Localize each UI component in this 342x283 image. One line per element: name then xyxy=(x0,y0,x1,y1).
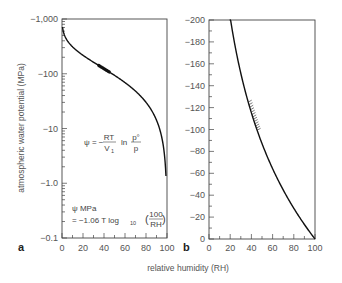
svg-text:ψ = −: ψ = − xyxy=(84,138,104,147)
panel-a-x-ticks xyxy=(62,233,167,238)
svg-text:−80: −80 xyxy=(190,146,205,156)
svg-text:−100: −100 xyxy=(185,125,205,135)
svg-text:p°: p° xyxy=(132,133,140,142)
svg-text:RH: RH xyxy=(150,220,162,229)
svg-text:−120: −120 xyxy=(185,103,205,113)
panel-a-y-ticks xyxy=(62,19,67,238)
a-ytick-1000: −1,000 xyxy=(30,14,58,24)
svg-text:RT: RT xyxy=(104,133,115,142)
a-ytick-0.1: −0.1 xyxy=(40,233,58,243)
svg-text:0: 0 xyxy=(206,243,211,253)
panel-a-highlight-segment xyxy=(99,65,110,72)
a-xtick-80: 80 xyxy=(141,243,151,253)
panel-a-label: a xyxy=(18,241,25,253)
panel-b-y-tick-labels: −200−180−160−140−120−100−80−60−40−200 xyxy=(185,15,205,244)
equation-2: ψ MPa = −1.06 T log 10 ( 100 RH ) xyxy=(72,204,166,229)
a-xtick-60: 60 xyxy=(120,243,130,253)
panel-a-curve xyxy=(63,27,166,176)
panel-b-y-ticks xyxy=(209,20,214,239)
svg-text:): ) xyxy=(162,213,166,225)
svg-text:= −1.06 T log: = −1.06 T log xyxy=(72,216,119,225)
svg-text:−60: −60 xyxy=(190,168,205,178)
svg-text:40: 40 xyxy=(246,243,256,253)
y-axis-title: atmospheric water potential (MPa) xyxy=(16,63,26,193)
svg-text:1: 1 xyxy=(111,148,114,154)
svg-text:100: 100 xyxy=(307,243,322,253)
a-ytick-1: −1.0 xyxy=(40,178,58,188)
svg-text:−160: −160 xyxy=(185,59,205,69)
panel-b-frame xyxy=(209,20,315,239)
svg-text:20: 20 xyxy=(225,243,235,253)
a-xtick-100: 100 xyxy=(159,243,174,253)
svg-text:10: 10 xyxy=(130,220,136,226)
a-xtick-0: 0 xyxy=(59,243,64,253)
svg-text:−140: −140 xyxy=(185,81,205,91)
equation-1: ψ = − RT V 1 ln p° p xyxy=(84,133,141,154)
svg-text:0: 0 xyxy=(200,234,205,244)
chart-figure: −1,000 −100 −10 −1.0 −0.1 0 20 40 60 80 … xyxy=(0,0,342,283)
svg-text:−200: −200 xyxy=(185,15,205,25)
svg-text:−40: −40 xyxy=(190,190,205,200)
panel-b-x-tick-labels: 020406080100 xyxy=(206,243,322,253)
svg-text:ln: ln xyxy=(121,138,127,147)
panel-b-label: b xyxy=(183,241,190,253)
svg-text:V: V xyxy=(104,144,110,153)
a-xtick-20: 20 xyxy=(78,243,88,253)
a-ytick-10: −10 xyxy=(43,124,58,134)
a-ytick-100: −100 xyxy=(38,69,58,79)
panel-b-curve xyxy=(230,20,315,239)
svg-text:60: 60 xyxy=(268,243,278,253)
panel-b-hatched-band xyxy=(248,100,260,130)
a-xtick-40: 40 xyxy=(99,243,109,253)
svg-text:80: 80 xyxy=(289,243,299,253)
svg-text:p: p xyxy=(134,144,139,153)
panel-b-x-ticks xyxy=(209,234,315,239)
svg-text:ψ MPa: ψ MPa xyxy=(72,204,97,213)
svg-text:−180: −180 xyxy=(185,37,205,47)
svg-text:−20: −20 xyxy=(190,212,205,222)
x-axis-title: relative humidity (RH) xyxy=(147,263,229,273)
